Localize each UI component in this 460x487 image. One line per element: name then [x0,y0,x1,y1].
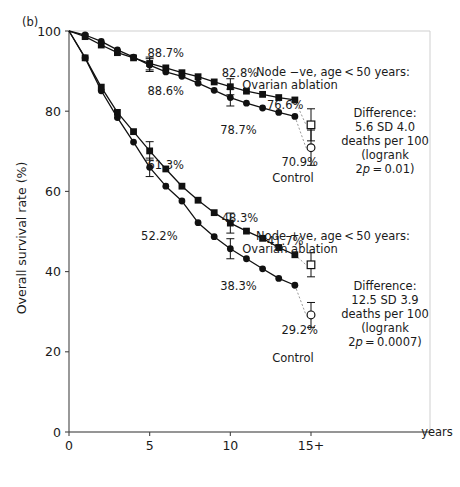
difference-value: 12.5 SD 3.9 [351,293,418,307]
data-point-circle [195,219,202,226]
point-label-node-neg-ablation-end: 76.6% [267,98,304,112]
node-positive-heading: Node +ve, age < 50 years: [256,229,410,243]
data-point-circle [146,62,153,69]
point-label-node-pos-ablation-y12: 48.3% [222,211,259,225]
endpoint-open-circle [307,311,315,319]
data-point-square [211,79,218,86]
difference-heading: Difference: [353,279,416,293]
point-label-node-pos-control-y13: 38.3% [220,279,257,293]
data-point-circle [82,32,89,39]
data-point-circle [227,245,234,252]
data-point-circle [259,265,266,272]
node-negative-heading: Node −ve, age < 50 years: [256,65,410,79]
panel-label: (b) [22,15,38,29]
point-label-node-neg-ablation-year8: 88.6% [148,84,185,98]
data-point-circle [291,113,298,120]
data-point-circle [114,114,121,121]
difference-unit: deaths per 100 [341,134,429,148]
y-axis-tick-label: 80 [45,104,61,119]
data-point-circle [82,54,89,61]
endpoint-open-circle [307,144,315,152]
y-axis-title: Overall survival rate (%) [14,162,29,315]
data-point-square [195,197,202,204]
x-axis-tick-label: 0 [65,438,73,453]
data-point-circle [179,73,186,80]
point-label-node-neg-control-year7: 88.7% [148,46,185,60]
endpoint-open-square [307,121,315,129]
data-point-square [195,73,202,80]
data-point-circle [98,38,105,45]
x-axis-tick-label: 5 [146,438,154,453]
data-point-circle [275,275,282,282]
data-point-circle [243,100,250,107]
data-point-circle [211,233,218,240]
endpoint-open-square [307,261,315,269]
data-point-circle [291,282,298,289]
data-point-square [211,209,218,216]
difference-p-value: 2p = 0.0007) [348,335,422,349]
data-point-circle [162,69,169,76]
data-point-circle [130,54,137,61]
data-point-circle [98,87,105,94]
difference-test: (logrank [361,148,409,162]
data-point-square [179,183,186,190]
data-point-circle [162,183,169,190]
x-axis-tick-label: 15+ [298,438,324,453]
y-axis-tick-label: 40 [45,264,61,279]
figure-panel-b: (b) 020406080100051015+ Overall survival… [0,0,460,487]
node-positive-control-label: Control [272,351,314,365]
node-negative-subheading: Ovarian ablation [242,78,337,92]
node-negative-control-label: Control [272,171,314,185]
difference-p-value: 2p = 0.01) [356,162,415,176]
data-point-circle [227,94,234,101]
difference-heading: Difference: [353,106,416,120]
difference-unit: deaths per 100 [341,307,429,321]
x-axis-tick-label: 10 [222,438,238,453]
data-point-circle [130,139,137,146]
x-axis-units-label: years [421,425,453,439]
survival-curve-chart: (b) 020406080100051015+ Overall survival… [0,0,460,487]
y-axis-tick-label: 60 [45,184,61,199]
data-point-circle [243,255,250,262]
point-label-node-pos-control-end: 29.2% [281,323,318,337]
point-label-node-neg-control-end: 70.9% [281,155,318,169]
data-point-circle [259,105,266,112]
data-point-circle [211,87,218,94]
y-axis-tick-label: 100 [37,24,61,39]
point-label-node-pos-ablation-year7: 61.3% [148,158,185,172]
point-label-node-pos-control-year8: 52.2% [141,229,178,243]
y-axis-tick-label: 20 [45,344,61,359]
node-positive-difference: Difference:12.5 SD 3.9deaths per 100(log… [341,279,429,349]
data-point-square [130,128,137,135]
point-label-node-neg-control-y14: 78.7% [220,123,257,137]
data-point-square [146,147,153,154]
data-point-square [243,228,250,235]
difference-test: (logrank [361,321,409,335]
node-positive-subheading: Ovarian ablation [242,242,337,256]
data-point-circle [179,198,186,205]
data-point-circle [195,80,202,87]
data-point-circle [114,46,121,53]
difference-value: 5.6 SD 4.0 [355,120,415,134]
y-axis-tick-label: 0 [53,425,61,440]
